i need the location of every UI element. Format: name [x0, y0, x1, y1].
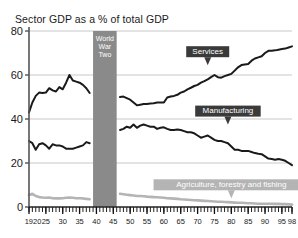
x-tick-label: 98	[288, 217, 296, 226]
x-tick-label: 60	[160, 217, 168, 226]
x-tick-label: 95	[278, 217, 286, 226]
manufacturing-annotation-pointer	[224, 117, 231, 125]
manufacturing-annotation-text: Manufacturing	[203, 106, 254, 115]
x-tick-label: 50	[126, 217, 134, 226]
world-war-two-label-line: War	[99, 43, 112, 50]
x-tick-label: 25	[42, 217, 50, 226]
y-tick-label: 0	[17, 201, 23, 213]
services-annotation: Services	[186, 46, 229, 65]
x-tick-label: 45	[109, 217, 117, 226]
x-tick-label: 85	[244, 217, 252, 226]
world-war-two-label-line: Two	[98, 51, 111, 58]
x-tick-label: 35	[75, 217, 83, 226]
x-tick-label: 80	[227, 217, 235, 226]
x-tick-label: 70	[193, 217, 201, 226]
x-tick-label: 90	[261, 217, 269, 226]
agriculture-annotation-text: Agriculture, forestry and fishing	[176, 180, 286, 189]
x-tick-label: 30	[59, 217, 67, 226]
chart-plot-area: WorldWarTwo02040608019202530354045505560…	[0, 0, 298, 238]
y-tick-label: 40	[11, 113, 23, 125]
services-annotation-pointer	[204, 57, 211, 65]
services-annotation-text: Services	[192, 47, 223, 56]
series-line-agriculture-seg0	[29, 194, 90, 200]
x-tick-label: 40	[92, 217, 100, 226]
chart-container: Sector GDP as a % of total GDP WorldWarT…	[0, 0, 298, 238]
manufacturing-annotation: Manufacturing	[195, 106, 261, 125]
series-line-services-seg0	[29, 75, 90, 112]
series-line-manufacturing-seg1	[120, 125, 292, 166]
world-war-two-label-line: World	[96, 35, 114, 42]
agriculture-annotation-pointer	[228, 190, 235, 198]
x-tick-label: 55	[143, 217, 151, 226]
y-tick-label: 80	[11, 25, 23, 37]
y-tick-label: 60	[11, 69, 23, 81]
x-tick-label: 75	[210, 217, 218, 226]
agriculture-annotation: Agriculture, forestry and fishing	[154, 179, 298, 198]
x-tick-label: 65	[177, 217, 185, 226]
x-tick-label: 1920	[25, 217, 42, 226]
y-tick-label: 20	[11, 157, 23, 169]
series-line-agriculture-seg1	[120, 194, 292, 205]
series-line-manufacturing-seg0	[29, 141, 90, 150]
